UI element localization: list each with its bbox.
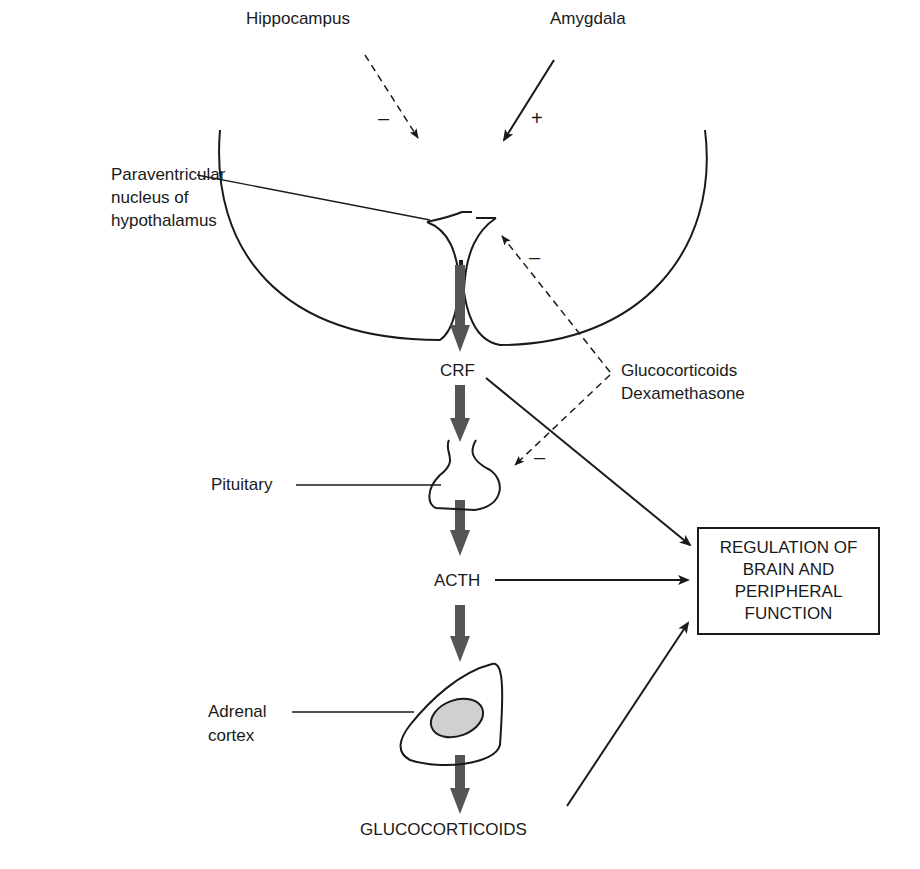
pvn-label-3: hypothalamus: [111, 210, 217, 231]
pvn-label-1: Paraventricular: [111, 164, 225, 185]
glucocorticoids-label: GLUCOCORTICOIDS: [360, 819, 527, 840]
box-line-3: PERIPHERAL: [735, 582, 843, 601]
adrenal-label-2: cortex: [208, 725, 254, 746]
box-line-4: FUNCTION: [745, 604, 833, 623]
feedback-arrows: [502, 236, 610, 465]
box-line-2: BRAIN AND: [743, 560, 835, 579]
regulation-box: REGULATION OF BRAIN AND PERIPHERAL FUNCT…: [697, 527, 880, 635]
adrenal-label-1: Adrenal: [208, 701, 267, 722]
adrenal-medulla: [425, 692, 488, 744]
pituitary-label: Pituitary: [211, 474, 272, 495]
pvn-label-2: nucleus of: [111, 187, 189, 208]
acth-label: ACTH: [434, 570, 480, 591]
regulation-arrows: [486, 378, 690, 806]
diagram-canvas: [0, 0, 920, 869]
amygdala-sign: +: [531, 108, 543, 128]
box-line-1: REGULATION OF: [720, 538, 858, 557]
feedback-label-1: Glucocorticoids: [621, 360, 737, 381]
amygdala-arrow: [504, 60, 554, 140]
feedback-sign-pvn: –: [529, 247, 540, 267]
pvn-pointer: [197, 175, 430, 220]
feedback-label-2: Dexamethasone: [621, 383, 745, 404]
crf-label: CRF: [440, 360, 475, 381]
pituitary-shape: [429, 440, 499, 510]
hippocampus-sign: –: [378, 108, 389, 128]
hippocampus-arrow: [365, 55, 418, 138]
hippocampus-label: Hippocampus: [246, 8, 350, 29]
amygdala-label: Amygdala: [550, 8, 626, 29]
feedback-sign-pituitary: –: [534, 447, 545, 467]
